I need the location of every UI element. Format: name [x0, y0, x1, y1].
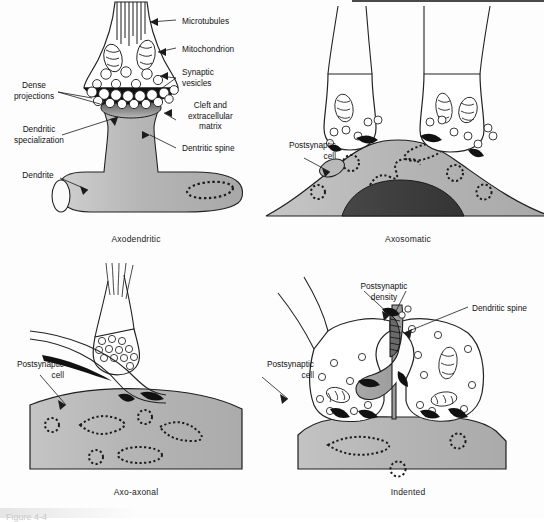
microtubules-group: [106, 263, 133, 299]
label-dentritic-spine: Dentritic spine: [182, 143, 235, 154]
terminal-left-lobe: [310, 319, 391, 422]
caption-indented: Indented: [272, 487, 544, 497]
label-dense-projections: Dense projections: [8, 80, 60, 101]
axon-stalk: [278, 277, 328, 349]
label-cleft-and-extracellular-matrix: Cleft and extracellular matrix: [188, 100, 233, 132]
label-postsynaptic-cell: Postsynaptic cell: [238, 359, 314, 380]
label-microtubules: Microtubules: [182, 16, 229, 27]
axosomatic-drawing: [272, 0, 544, 232]
label-postsynaptic-density: Postsynaptic density: [342, 281, 426, 302]
figure-number-partial: Figure 4-4: [6, 512, 47, 522]
caption-axodendritic: Axodendritic: [0, 234, 272, 244]
postsynaptic-cell-body: [298, 417, 506, 469]
panel-axo-axonal: Postsynaptic cell Axo-axonal: [0, 259, 272, 518]
label-mitochondrion: Mitochondrion: [182, 44, 234, 55]
panel-axodendritic: Microtubules Mitochondrion Synaptic vesi…: [0, 0, 272, 259]
label-dendrite: Dendrite: [12, 170, 64, 181]
panel-axosomatic: Postsynaptic cell Axosomatic: [272, 0, 544, 259]
label-dendritic-spine: Dendritic spine: [472, 303, 527, 314]
caption-axo-axonal: Axo-axonal: [0, 487, 272, 497]
axon-stalks: [328, 6, 490, 74]
label-postsynaptic-cell: Postsynaptic cell: [0, 359, 64, 380]
label-synaptic-vesicles: Synaptic vesicles: [182, 67, 214, 88]
label-postsynaptic-cell: Postsynaptic cell: [264, 140, 336, 161]
panel-indented: Postsynaptic density Dendritic spine Pos…: [272, 259, 544, 518]
label-dendritic-specialization: Dendritic specialization: [8, 124, 70, 145]
caption-axosomatic: Axosomatic: [272, 234, 544, 244]
